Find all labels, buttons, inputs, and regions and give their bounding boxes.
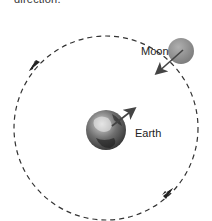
earth-label: Earth <box>135 127 161 139</box>
earth-icon <box>86 110 126 150</box>
orbit-diagram <box>0 0 212 221</box>
moon-label: Moon <box>141 45 169 57</box>
